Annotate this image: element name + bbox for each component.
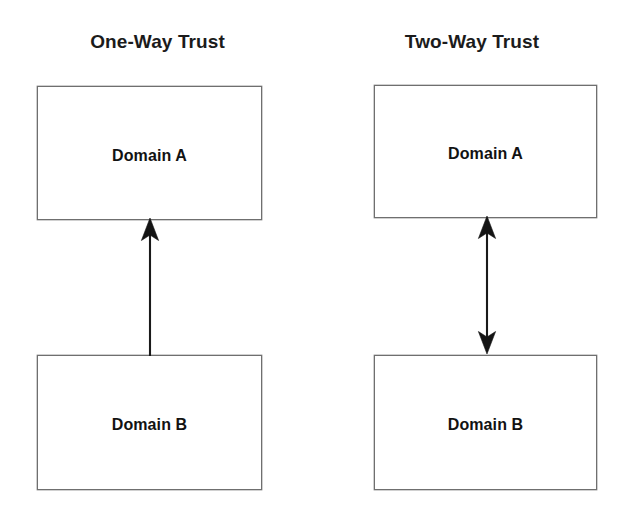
- node-box-domain-a-one-way: Domain A: [37, 86, 262, 220]
- panel-title-two-way: Two-Way Trust: [315, 30, 629, 54]
- panel-one-way-trust: One-Way Trust Domain A Domain B: [0, 0, 315, 517]
- node-label-domain-b-two-way: Domain B: [375, 416, 596, 434]
- node-box-domain-b-two-way: Domain B: [374, 355, 597, 490]
- diagram-canvas: One-Way Trust Domain A Domain B Two-Way …: [0, 0, 629, 517]
- panel-title-one-way: One-Way Trust: [0, 30, 315, 54]
- arrow-two-way-a-b: [457, 210, 517, 360]
- node-label-domain-b-one-way: Domain B: [38, 416, 261, 434]
- arrow-one-way-b-to-a: [120, 212, 180, 362]
- node-label-domain-a-one-way: Domain A: [38, 147, 261, 165]
- panel-two-way-trust: Two-Way Trust Domain A Domain B: [315, 0, 629, 517]
- node-box-domain-a-two-way: Domain A: [374, 85, 597, 218]
- node-label-domain-a-two-way: Domain A: [375, 145, 596, 163]
- node-box-domain-b-one-way: Domain B: [37, 355, 262, 490]
